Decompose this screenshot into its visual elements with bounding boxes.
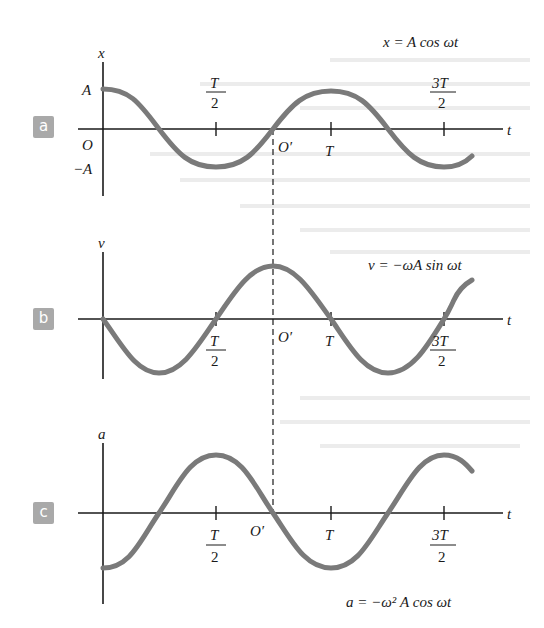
acceleration-curve [103,455,472,568]
position-curve [103,89,472,167]
y-axis-label: v [98,235,105,251]
panel-c: a t O′ T 2 T 3T 2 a = −ω² A cos ωt [78,426,512,610]
x-axis-label: t [507,312,512,328]
tick-label-half-period-den: 2 [211,353,219,369]
o-prime-label: O′ [278,329,293,345]
tick-label-three-half-period-den: 2 [438,353,446,369]
panel-a: x t A −A O O′ T 2 T 3T 2 x = A cos ωt [73,34,512,196]
x-axis-label: t [507,122,512,138]
amplitude-bottom-label: −A [73,161,93,177]
amplitude-top-label: A [81,82,92,98]
tick-label-three-half-period-num: 3T [431,527,450,543]
panel-badge-a: a [33,116,54,138]
tick-label-period: T [325,333,335,349]
equation-position: x = A cos ωt [382,34,459,50]
tick-label-half-period-num: T [210,75,220,91]
panel-badge-c: c [33,502,54,524]
o-prime-label: O′ [278,139,293,155]
tick-label-three-half-period-num: 3T [431,75,450,91]
origin-label: O [82,137,93,153]
panel-b: v t O′ T 2 T 3T 2 v = −ωA sin ωt [78,235,512,379]
o-prime-label: O′ [250,523,265,539]
tick-label-half-period-den: 2 [211,95,219,111]
y-axis-label: a [98,426,106,442]
tick-label-three-half-period-num: 3T [431,333,450,349]
tick-label-period: T [325,143,335,159]
tick-label-three-half-period-den: 2 [438,95,446,111]
y-axis-label: x [97,45,105,61]
x-axis-label: t [507,506,512,522]
tick-label-half-period-num: T [210,527,220,543]
panel-badge-b: b [33,308,54,330]
tick-label-half-period-num: T [210,333,220,349]
equation-velocity: v = −ωA sin ωt [368,257,462,273]
tick-label-three-half-period-den: 2 [438,549,446,565]
tick-label-half-period-den: 2 [211,549,219,565]
shm-figure: x t A −A O O′ T 2 T 3T 2 x = A cos ωt v … [0,0,544,628]
tick-label-period: T [325,527,335,543]
equation-acceleration: a = −ω² A cos ωt [346,594,452,610]
